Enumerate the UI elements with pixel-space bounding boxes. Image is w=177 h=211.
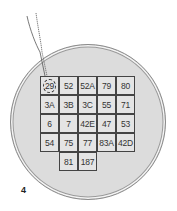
terminal-6[interactable]: 6	[40, 114, 59, 133]
terminal-81[interactable]: 81	[59, 152, 78, 171]
terminal-7[interactable]: 7	[59, 114, 78, 133]
terminal-29[interactable]: 29	[40, 76, 59, 95]
terminal-77[interactable]: 77	[78, 133, 97, 152]
figure-number: 4	[21, 185, 26, 195]
terminal-54[interactable]: 54	[40, 133, 59, 152]
terminal-42d[interactable]: 42D	[116, 133, 135, 152]
terminal-71[interactable]: 71	[116, 95, 135, 114]
terminal-80[interactable]: 80	[116, 76, 135, 95]
terminal-75[interactable]: 75	[59, 133, 78, 152]
terminal-53[interactable]: 53	[116, 114, 135, 133]
terminal-79[interactable]: 79	[97, 76, 116, 95]
terminal-52[interactable]: 52	[59, 76, 78, 95]
terminal-187[interactable]: 187	[78, 152, 97, 171]
terminal-42e[interactable]: 42E	[78, 114, 97, 133]
terminal-3a[interactable]: 3A	[40, 95, 59, 114]
terminal-47[interactable]: 47	[97, 114, 116, 133]
terminal-83a[interactable]: 83A	[97, 133, 116, 152]
terminal-52a[interactable]: 52A	[78, 76, 97, 95]
terminal-3c[interactable]: 3C	[78, 95, 97, 114]
terminal-55[interactable]: 55	[97, 95, 116, 114]
terminal-3b[interactable]: 3B	[59, 95, 78, 114]
